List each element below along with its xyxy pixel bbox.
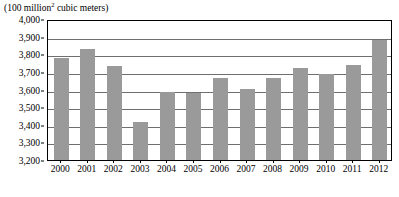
y-axis: 4,0003,9003,8003,7003,6003,5003,4003,300… xyxy=(0,20,44,161)
bar xyxy=(293,68,308,160)
y-tick-mark xyxy=(41,90,44,91)
y-tick-label: 3,300 xyxy=(19,138,40,148)
bar xyxy=(133,122,148,160)
y-tick-mark xyxy=(41,72,44,73)
x-tick-mark xyxy=(352,160,353,163)
y-tick-mark xyxy=(41,161,44,162)
plot-area xyxy=(47,20,392,161)
bar xyxy=(346,65,361,160)
x-tick-mark xyxy=(220,160,221,163)
x-tick-label: 2008 xyxy=(263,163,282,175)
bar xyxy=(107,66,122,160)
y-tick-mark xyxy=(41,55,44,56)
x-tick-label: 2004 xyxy=(157,163,176,175)
x-tick-label: 2009 xyxy=(290,163,309,175)
y-tick-mark xyxy=(41,37,44,38)
y-tick-label: 3,700 xyxy=(19,68,40,78)
y-tick-label: 3,200 xyxy=(19,156,40,166)
x-tick-label: 2007 xyxy=(237,163,256,175)
x-tick-mark xyxy=(87,160,88,163)
x-tick-mark xyxy=(299,160,300,163)
caption-prefix: (100 million xyxy=(4,3,51,13)
x-tick-label: 2000 xyxy=(51,163,70,175)
bar xyxy=(160,92,175,160)
y-tick-label: 3,900 xyxy=(19,33,40,43)
y-tick-mark xyxy=(41,125,44,126)
x-tick-mark xyxy=(273,160,274,163)
bar xyxy=(240,89,255,160)
x-tick-mark xyxy=(193,160,194,163)
x-tick-mark xyxy=(60,160,61,163)
caption-suffix: cubic meters) xyxy=(55,3,109,13)
y-tick-label: 3,800 xyxy=(19,50,40,60)
bar xyxy=(319,74,334,160)
bar xyxy=(372,40,387,160)
x-tick-label: 2010 xyxy=(316,163,335,175)
y-tick-label: 3,500 xyxy=(19,103,40,113)
x-tick-label: 2001 xyxy=(77,163,96,175)
x-tick-label: 2012 xyxy=(369,163,388,175)
bar xyxy=(213,78,228,160)
bar xyxy=(186,93,201,160)
x-tick-mark xyxy=(246,160,247,163)
y-tick-label: 3,600 xyxy=(19,86,40,96)
x-tick-label: 2011 xyxy=(343,163,362,175)
x-tick-mark xyxy=(379,160,380,163)
x-tick-label: 2003 xyxy=(130,163,149,175)
y-tick-mark xyxy=(41,108,44,109)
y-tick-label: 3,400 xyxy=(19,121,40,131)
bar-chart-figure: (100 million2 cubic meters) 4,0003,9003,… xyxy=(0,0,399,197)
bar xyxy=(80,49,95,160)
y-tick-mark xyxy=(41,143,44,144)
bar xyxy=(54,58,69,160)
chart-unit-caption: (100 million2 cubic meters) xyxy=(4,2,108,14)
y-tick-label: 4,000 xyxy=(19,15,40,25)
x-tick-mark xyxy=(166,160,167,163)
x-tick-label: 2002 xyxy=(104,163,123,175)
x-tick-mark xyxy=(140,160,141,163)
bars-layer xyxy=(48,21,391,160)
y-tick-mark xyxy=(41,20,44,21)
x-tick-mark xyxy=(113,160,114,163)
bar xyxy=(266,78,281,160)
x-tick-label: 2005 xyxy=(183,163,202,175)
x-tick-label: 2006 xyxy=(210,163,229,175)
x-axis: 2000200120022003200420052006200720082009… xyxy=(47,163,392,179)
x-tick-mark xyxy=(326,160,327,163)
